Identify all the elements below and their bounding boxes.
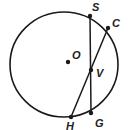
label-c: C (112, 17, 121, 29)
point-c (106, 26, 110, 30)
point-v (89, 68, 93, 72)
point-h (69, 115, 73, 119)
point-s (88, 14, 92, 18)
circle-diagram-canvas: O S C V G H (0, 0, 128, 130)
label-g: G (95, 117, 104, 129)
chord-sg (90, 16, 91, 113)
point-g (89, 111, 93, 115)
geometry-diagram: O S C V G H (0, 0, 128, 130)
label-o: O (72, 49, 81, 61)
label-s: S (92, 1, 100, 13)
circle-o (10, 12, 118, 117)
label-v: V (96, 67, 105, 79)
label-h: H (66, 120, 75, 130)
point-o (66, 60, 70, 64)
